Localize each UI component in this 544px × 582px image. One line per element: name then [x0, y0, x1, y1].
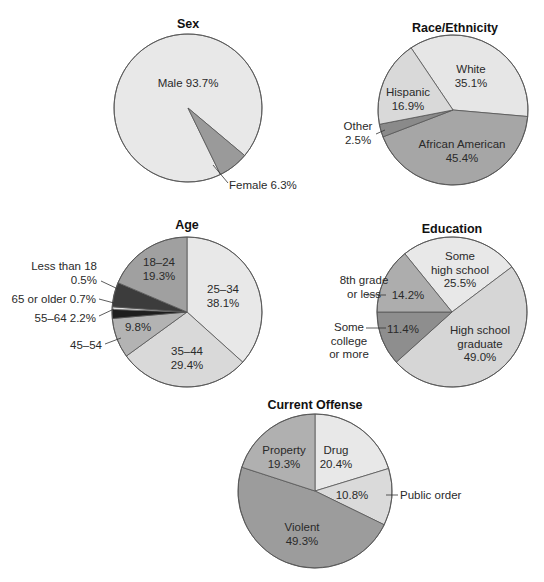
- pie-age: 18–2419.3%25–3438.1%35–4429.4%9.8%Less t…: [12, 237, 262, 387]
- slice-label: 10.8%: [336, 489, 369, 501]
- title-age: Age: [175, 218, 199, 232]
- slice-label: Violent49.3%: [285, 521, 321, 547]
- slice-label: Drug20.4%: [320, 444, 353, 470]
- pie-education: Somehigh school25.5%High schoolgraduate4…: [329, 237, 527, 387]
- slice-label: Less than 180.5%: [31, 260, 97, 286]
- slice-label: Other2.5%: [344, 120, 373, 146]
- leader-line: [99, 299, 114, 303]
- pie-race-ethnicity: White35.1%Hispanic16.9%Other2.5%African …: [344, 35, 528, 185]
- slice-label: Female 6.3%: [229, 179, 297, 191]
- slice-label: White35.1%: [455, 63, 488, 89]
- title-race-ethnicity: Race/Ethnicity: [412, 21, 498, 35]
- slice-label: 25–3438.1%: [207, 283, 240, 309]
- title-education: Education: [422, 222, 482, 236]
- slice-label: 11.4%: [387, 323, 419, 335]
- slice-label: Somecollegeor more: [329, 321, 369, 360]
- pie-chart-figure: Male 93.7%Female 6.3% White35.1%Hispanic…: [0, 0, 544, 582]
- slice-label: 14.2%: [392, 289, 425, 301]
- pie-current-offense: Property19.3%Drug20.4%10.8%Violent49.3%P…: [238, 414, 462, 568]
- slice-label: 18–2419.3%: [143, 256, 176, 282]
- title-sex: Sex: [177, 17, 199, 31]
- slice-label: 45–54: [70, 339, 103, 351]
- pie-sex: Male 93.7%Female 6.3%: [114, 34, 297, 191]
- title-current-offense: Current Offense: [267, 398, 362, 412]
- slice-label: 9.8%: [125, 321, 151, 333]
- slice-label: Hispanic16.9%: [386, 86, 430, 112]
- slice-label: Male 93.7%: [158, 77, 219, 89]
- slice-label: 55–64 2.2%: [35, 312, 96, 324]
- slice-label: Property19.3%: [262, 444, 306, 470]
- slice-label: 35–4429.4%: [171, 345, 204, 371]
- leader-line: [101, 281, 118, 289]
- slice-label: 65 or older 0.7%: [12, 293, 96, 305]
- slice-label: Public order: [400, 489, 462, 501]
